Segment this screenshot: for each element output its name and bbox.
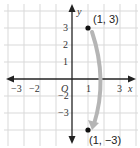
point-label-1-3: (1, 3) [93,13,119,25]
y-tick-neg2: −2 [58,90,69,101]
x-axis [6,76,136,83]
y-axis-down-arrow-icon [69,136,76,144]
x-tick-neg2: −2 [29,83,40,94]
x-tick-1: 1 [86,83,91,94]
grid [4,4,138,146]
x-axis-left-arrow-icon [6,76,14,83]
y-tick-neg3: −3 [58,107,69,118]
y-axis-label: y [76,6,82,17]
x-tick-neg3: −3 [11,83,22,94]
point-1-3 [85,25,90,30]
y-tick-2: 2 [63,39,68,50]
x-axis-right-arrow-icon [128,76,136,83]
reflection-arrow [88,32,101,130]
y-axis [69,4,76,144]
coordinate-plane: y x O −3 −2 1 3 3 2 1 −2 −3 (1, 3) (1, −… [0,0,140,148]
y-tick-1: 1 [63,56,68,67]
y-tick-3: 3 [63,22,68,33]
y-axis-up-arrow-icon [69,4,76,12]
point-1-neg3 [85,127,90,132]
point-label-1-neg3: (1, −3) [89,134,121,146]
x-tick-3: 3 [117,83,122,94]
x-axis-label: x [127,83,133,94]
